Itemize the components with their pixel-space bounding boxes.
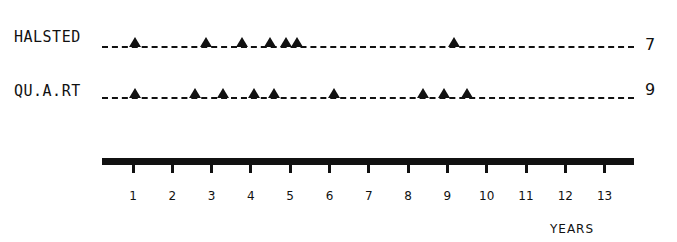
x-tick-label: 13 xyxy=(597,189,612,203)
x-tick xyxy=(485,164,488,173)
triangle-marker-icon xyxy=(328,88,340,98)
x-tick-label: 8 xyxy=(404,189,412,203)
x-tick-label: 7 xyxy=(365,189,373,203)
x-tick-label: 4 xyxy=(247,189,255,203)
x-tick-label: 5 xyxy=(286,189,294,203)
triangle-marker-icon xyxy=(291,37,303,47)
x-tick-label: 2 xyxy=(168,189,176,203)
x-tick-label: 11 xyxy=(518,189,533,203)
triangle-marker-icon xyxy=(417,88,429,98)
timeline-halsted xyxy=(102,46,634,48)
series-label-halsted: HALSTED xyxy=(14,28,81,46)
x-tick-label: 12 xyxy=(558,189,573,203)
series-count-quart: 9 xyxy=(645,80,655,99)
series-count-halsted: 7 xyxy=(645,35,655,54)
x-tick xyxy=(407,164,410,173)
triangle-marker-icon xyxy=(268,88,280,98)
x-tick xyxy=(564,164,567,173)
triangle-marker-icon xyxy=(448,37,460,47)
x-tick-label: 6 xyxy=(326,189,334,203)
x-tick-label: 10 xyxy=(479,189,494,203)
triangle-marker-icon xyxy=(129,88,141,98)
x-tick xyxy=(249,164,252,173)
timeline-quart xyxy=(102,97,634,99)
triangle-marker-icon xyxy=(248,88,260,98)
x-tick-label: 9 xyxy=(444,189,452,203)
triangle-marker-icon xyxy=(129,37,141,47)
triangle-marker-icon xyxy=(200,37,212,47)
triangle-marker-icon xyxy=(217,88,229,98)
x-tick xyxy=(603,164,606,173)
triangle-marker-icon xyxy=(438,88,450,98)
triangle-marker-icon xyxy=(264,37,276,47)
x-tick xyxy=(328,164,331,173)
x-tick xyxy=(132,164,135,173)
x-tick-label: 1 xyxy=(129,189,137,203)
x-tick xyxy=(525,164,528,173)
x-tick-label: 3 xyxy=(208,189,216,203)
x-tick xyxy=(171,164,174,173)
series-label-quart: QU.A.RT xyxy=(14,82,81,100)
triangle-marker-icon xyxy=(236,37,248,47)
x-tick xyxy=(367,164,370,173)
x-tick xyxy=(289,164,292,173)
x-axis-label: YEARS xyxy=(550,222,594,236)
x-tick xyxy=(446,164,449,173)
triangle-marker-icon xyxy=(461,88,473,98)
triangle-marker-icon xyxy=(189,88,201,98)
x-tick xyxy=(210,164,213,173)
